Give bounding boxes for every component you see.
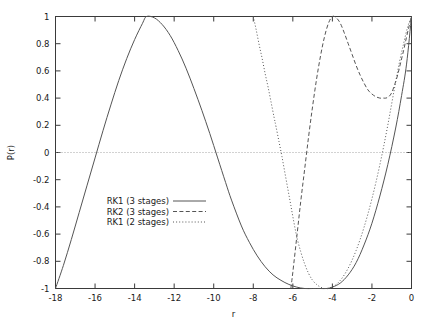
y-tick-label: 0.6: [36, 66, 50, 76]
y-tick-label: -0.6: [33, 229, 50, 239]
x-tick-label: -14: [128, 293, 142, 303]
y-axis-tick-labels: -1-0.8-0.6-0.4-0.200.20.40.60.81: [33, 12, 50, 294]
series-line-2: [291, 16, 412, 288]
x-tick-label: -18: [49, 293, 63, 303]
x-tick-label: -10: [207, 293, 221, 303]
x-axis-title: r: [232, 309, 236, 319]
y-axis-title: P(r): [6, 145, 16, 160]
y-tick-label: -0.4: [33, 202, 50, 212]
y-tick-label: 0.4: [36, 93, 50, 103]
x-tick-label: -8: [249, 293, 257, 303]
chart-container: -1-0.8-0.6-0.4-0.200.20.40.60.81 -18-16-…: [0, 0, 427, 325]
x-tick-label: -12: [167, 293, 181, 303]
y-tick-label: -0.2: [33, 175, 50, 185]
y-tick-label: 0.2: [36, 120, 50, 130]
x-tick-label: -16: [88, 293, 102, 303]
x-tick-label: 0: [409, 293, 414, 303]
chart-legend: RK1 (3 stages)RK2 (3 stages)RK1 (2 stage…: [107, 196, 206, 227]
legend-label-3: RK1 (2 stages): [107, 217, 169, 227]
x-tick-label: -4: [328, 293, 336, 303]
plot-canvas: -1-0.8-0.6-0.4-0.200.20.40.60.81 -18-16-…: [0, 0, 427, 325]
y-tick-label: 0.8: [36, 39, 50, 49]
y-tick-label: 1: [44, 12, 49, 22]
legend-label-1: RK1 (3 stages): [107, 196, 169, 206]
x-axis-tick-labels: -18-16-14-12-10-8-6-4-20: [49, 293, 415, 303]
y-tick-label: 0: [44, 148, 49, 158]
legend-label-2: RK2 (3 stages): [107, 207, 169, 217]
x-tick-label: -6: [289, 293, 297, 303]
x-tick-label: -2: [368, 293, 376, 303]
y-tick-label: -0.8: [33, 256, 50, 266]
